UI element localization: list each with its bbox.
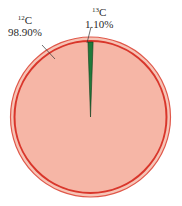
label-13c-percent: 1.10%: [85, 18, 113, 30]
label-13c-isotope: 13C: [85, 6, 113, 18]
element-symbol: C: [25, 14, 32, 26]
mass-number: 13: [92, 6, 99, 14]
mass-number: 12: [18, 14, 25, 22]
label-12c-isotope: 12C: [8, 14, 42, 26]
label-12c-percent: 98.90%: [8, 26, 42, 38]
element-symbol: C: [99, 6, 106, 18]
label-12c: 12C 98.90%: [8, 14, 42, 38]
label-13c: 13C 1.10%: [85, 6, 113, 30]
